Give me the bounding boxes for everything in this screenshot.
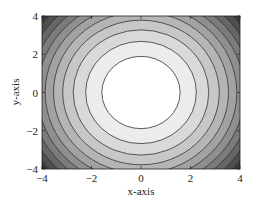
y-tick-label: −4	[26, 163, 38, 175]
x-tick-label: −2	[86, 172, 98, 184]
x-tick-label: 2	[188, 172, 194, 184]
x-tick-label: 0	[138, 172, 144, 184]
y-axis-label: y-axis	[9, 79, 21, 106]
x-tick-label: 4	[237, 172, 243, 184]
y-tick-label: 2	[33, 48, 39, 60]
y-tick-label: −2	[26, 125, 38, 137]
x-axis-label: x-axis	[128, 185, 155, 197]
y-tick-label: 0	[33, 87, 39, 99]
contour-chart: −4−2024 −4−2024 x-axis y-axis	[0, 0, 253, 201]
y-tick-label: 4	[33, 10, 39, 22]
